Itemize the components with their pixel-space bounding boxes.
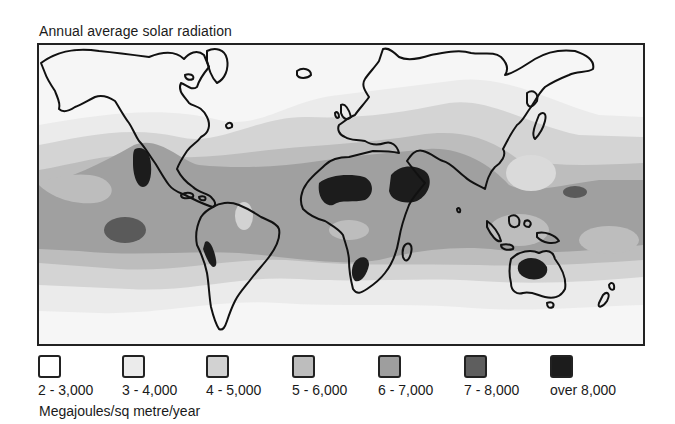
zone-4-5000-patch-china <box>506 155 556 191</box>
solar-radiation-map <box>39 45 643 344</box>
legend-label: 3 - 4,000 <box>122 382 177 398</box>
legend-swatch <box>292 355 315 378</box>
legend-swatch <box>38 355 61 378</box>
legend-item-over-8000: over 8,000 <box>550 355 573 378</box>
legend: 2 - 3,000 3 - 4,000 4 - 5,000 5 - 6,000 … <box>38 355 658 395</box>
legend-item-7-8000: 7 - 8,000 <box>464 355 487 378</box>
legend-label: over 8,000 <box>550 382 616 398</box>
world-map <box>37 43 645 346</box>
legend-item-3-4000: 3 - 4,000 <box>122 355 145 378</box>
legend-swatch <box>378 355 401 378</box>
legend-label: 5 - 6,000 <box>292 382 347 398</box>
map-title: Annual average solar radiation <box>39 23 232 39</box>
legend-label: 6 - 7,000 <box>378 382 433 398</box>
legend-label: 2 - 3,000 <box>38 382 93 398</box>
legend-item-6-7000: 6 - 7,000 <box>378 355 401 378</box>
zone-7-8000-pacific <box>104 217 146 243</box>
legend-swatch <box>206 355 229 378</box>
legend-swatch <box>464 355 487 378</box>
legend-item-2-3000: 2 - 3,000 <box>38 355 61 378</box>
zone-7-8000-n-pacific <box>563 186 587 198</box>
legend-item-4-5000: 4 - 5,000 <box>206 355 229 378</box>
legend-label: 7 - 8,000 <box>464 382 519 398</box>
legend-label: 4 - 5,000 <box>206 382 261 398</box>
zone-5-6000-patch-congo <box>329 220 369 240</box>
legend-swatch <box>122 355 145 378</box>
legend-swatch <box>550 355 573 378</box>
legend-item-5-6000: 5 - 6,000 <box>292 355 315 378</box>
units-label: Megajoules/sq metre/year <box>39 403 200 419</box>
zone-5-6000-patch-indian <box>579 226 639 254</box>
